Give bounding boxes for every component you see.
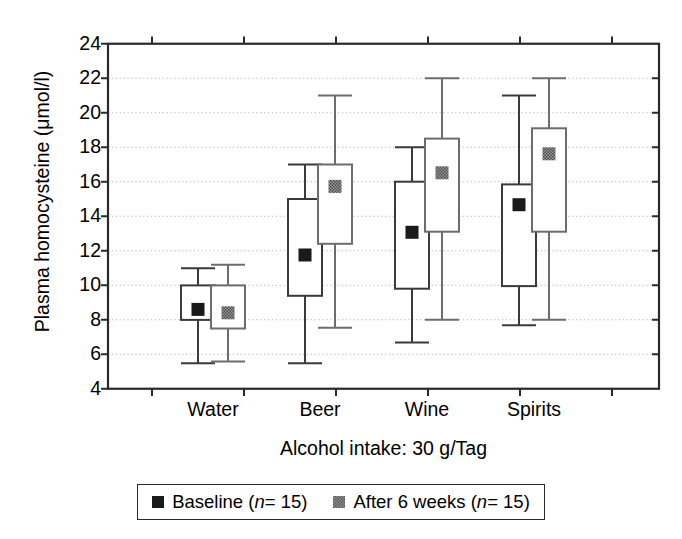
- mean-marker-baseline: [192, 303, 205, 316]
- x-tick-label-spirits: Spirits: [507, 398, 561, 421]
- boxplot-figure: Plasma homocysteine (μmol/l) 24 22 20 18…: [0, 0, 682, 539]
- legend-label-baseline: Baseline (n= 15): [172, 491, 307, 513]
- box-beer-baseline: [288, 165, 322, 364]
- legend-label-after: After 6 weeks (n= 15): [353, 491, 529, 513]
- mean-marker-after: [222, 306, 235, 319]
- y-tick-marks: [101, 44, 659, 389]
- box-beer-after: [318, 96, 352, 328]
- legend-entry-baseline: Baseline (n= 15): [152, 491, 307, 513]
- box-spirits-after: [532, 78, 566, 319]
- x-tick-label-beer: Beer: [299, 398, 340, 421]
- after-swatch-icon: [333, 496, 345, 508]
- box-wine-baseline: [395, 147, 429, 342]
- baseline-swatch-icon: [152, 496, 164, 508]
- mean-marker-baseline: [299, 249, 312, 262]
- mean-marker-baseline: [513, 198, 526, 211]
- mean-marker-baseline: [406, 226, 419, 239]
- mean-marker-after: [436, 166, 449, 179]
- x-axis-title: Alcohol intake: 30 g/Tag: [107, 437, 660, 460]
- x-tick-label-water: Water: [187, 398, 238, 421]
- legend-entry-after: After 6 weeks (n= 15): [333, 491, 529, 513]
- x-tick-label-wine: Wine: [405, 398, 449, 421]
- box-wine-after: [425, 78, 459, 319]
- mean-marker-after: [329, 180, 342, 193]
- legend: Baseline (n= 15) After 6 weeks (n= 15): [137, 484, 545, 520]
- mean-marker-after: [543, 147, 556, 160]
